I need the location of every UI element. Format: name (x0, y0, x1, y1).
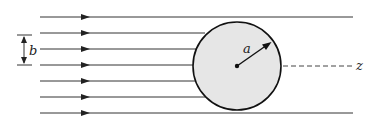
scattering-diagram: b a z (0, 0, 381, 123)
impact-parameter-label: b (29, 43, 37, 58)
up-arrow-icon (21, 36, 27, 43)
sphere: a (193, 22, 281, 110)
arrow-icon (81, 94, 90, 100)
z-axis-label: z (355, 58, 363, 73)
arrow-icon (81, 110, 90, 116)
arrow-icon (81, 46, 90, 52)
arrow-icon (81, 30, 90, 36)
impact-parameter-marker: b (17, 35, 37, 65)
flow-arrowheads (81, 14, 90, 116)
z-axis: z (283, 58, 363, 73)
arrow-icon (81, 78, 90, 84)
arrow-icon (81, 14, 90, 20)
arrow-icon (81, 62, 90, 68)
radius-label: a (243, 41, 251, 56)
down-arrow-icon (21, 57, 27, 64)
